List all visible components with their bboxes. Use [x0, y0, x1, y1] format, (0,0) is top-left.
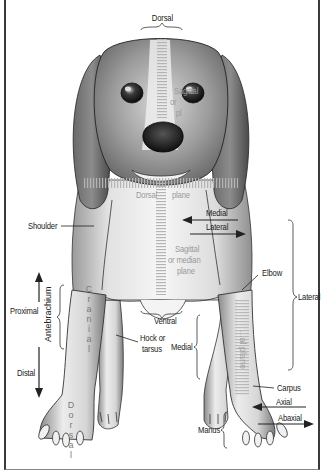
label-axial: Axial: [276, 398, 292, 407]
nose: [143, 122, 183, 152]
label-dorsal-vertical: D o r s a l: [67, 400, 75, 460]
label-ventral: Ventral: [154, 317, 177, 326]
left-eye: [121, 83, 143, 103]
label-distal: Distal: [17, 369, 35, 378]
antebrachium-brace: [57, 285, 64, 349]
label-lateral-arrow: Lateral: [206, 223, 228, 232]
label-hock-2: tarsus: [142, 345, 162, 354]
medial-brace: [194, 315, 200, 379]
label-shoulder: Shoulder: [28, 222, 57, 231]
sagittal-plane-head-hatch: [157, 38, 167, 118]
label-sagittal-head-3: pl: [176, 109, 182, 118]
label-medial-arrow: Medial: [206, 209, 228, 218]
label-dorsal-plane-right: plane: [172, 191, 190, 200]
label-cranial-vertical: C r a n i a l: [85, 284, 93, 354]
label-abaxial: Abaxial: [278, 414, 302, 423]
label-transverse-plane: ...al plane: [238, 330, 247, 369]
label-antebrachium: Antebrachium: [44, 286, 53, 342]
dorsal-brace: [141, 23, 182, 30]
label-sagittal-body-2: or median: [168, 256, 200, 265]
sagittal-plane-body-hatch: [156, 180, 166, 295]
label-hock-1: Hock or: [140, 334, 165, 343]
label-elbow: Elbow: [262, 269, 282, 278]
dorsal-plane-hatch: [84, 178, 238, 188]
label-sagittal-body-3: plane: [177, 267, 195, 276]
label-carpus: Carpus: [277, 384, 301, 393]
label-sagittal-body-1: Sagittal: [175, 245, 199, 254]
label-lateral-brace: Lateral: [298, 293, 320, 302]
label-proximal: Proximal: [10, 307, 38, 316]
label-sagittal-head-2: or: [170, 98, 176, 107]
label-sagittal-head-1: Sagittal: [174, 87, 198, 96]
label-manus: Manus: [198, 426, 220, 435]
label-dorsal-top: Dorsal: [152, 14, 173, 23]
lateral-brace: [288, 220, 297, 370]
label-dorsal-plane-left: Dorsal: [136, 191, 157, 200]
label-medial-brace: Medial: [171, 343, 193, 352]
